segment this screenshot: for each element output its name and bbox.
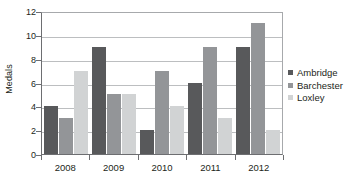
bar-barchester-2008 <box>59 118 73 154</box>
bar-barchester-2009 <box>107 94 121 154</box>
bar-ambridge-2012 <box>236 47 250 154</box>
bar-loxley-2012 <box>266 130 280 154</box>
x-axis-label-2008: 2008 <box>41 162 89 173</box>
y-tick-label-2: 2 <box>6 126 36 136</box>
x-axis-label-2009: 2009 <box>89 162 137 173</box>
x-tick-mark-5 <box>283 155 284 160</box>
legend-item-barchester[interactable]: Barchester <box>288 81 343 91</box>
bar-loxley-2010 <box>170 106 184 154</box>
bar-group-2012 <box>234 13 282 154</box>
bar-ambridge-2008 <box>44 106 58 154</box>
plot-area <box>41 12 283 155</box>
legend: AmbridgeBarchesterLoxley <box>288 68 343 103</box>
bar-loxley-2011 <box>218 118 232 154</box>
x-axis-labels: 20082009201020112012 <box>41 162 283 173</box>
x-tick-mark-0 <box>41 155 42 160</box>
bar-group-2009 <box>90 13 138 154</box>
x-axis-label-2011: 2011 <box>186 162 234 173</box>
bar-groups <box>42 13 282 154</box>
bar-ambridge-2009 <box>92 47 106 154</box>
y-tick-label-10: 10 <box>6 31 36 41</box>
y-tick-label-0: 0 <box>6 150 36 160</box>
legend-label-ambridge: Ambridge <box>297 68 338 78</box>
bar-loxley-2008 <box>74 71 88 154</box>
bar-group-2011 <box>186 13 234 154</box>
x-tick-mark-3 <box>186 155 187 160</box>
legend-swatch-icon-barchester <box>288 83 293 88</box>
y-tick-label-4: 4 <box>6 102 36 112</box>
bar-loxley-2009 <box>122 94 136 154</box>
y-tick-label-6: 6 <box>6 79 36 89</box>
legend-swatch-icon-ambridge <box>288 70 293 75</box>
legend-item-loxley[interactable]: Loxley <box>288 93 343 103</box>
bar-ambridge-2010 <box>140 130 154 154</box>
x-tick-mark-1 <box>89 155 90 160</box>
bar-barchester-2010 <box>155 71 169 154</box>
bar-barchester-2011 <box>203 47 217 154</box>
bar-ambridge-2011 <box>188 83 202 155</box>
x-axis-label-2012: 2012 <box>235 162 283 173</box>
legend-label-loxley: Loxley <box>297 93 324 103</box>
y-tick-label-8: 8 <box>6 55 36 65</box>
legend-swatch-icon-loxley <box>288 95 293 100</box>
x-axis-label-2010: 2010 <box>138 162 186 173</box>
x-tick-mark-2 <box>138 155 139 160</box>
legend-item-ambridge[interactable]: Ambridge <box>288 68 343 78</box>
legend-label-barchester: Barchester <box>297 81 343 91</box>
y-tick-label-12: 12 <box>6 7 36 17</box>
bar-group-2008 <box>42 13 90 154</box>
bar-chart: Medals 024681012 20082009201020112012 Am… <box>0 0 355 185</box>
bar-barchester-2012 <box>251 23 265 154</box>
x-tick-mark-4 <box>235 155 236 160</box>
bar-group-2010 <box>138 13 186 154</box>
